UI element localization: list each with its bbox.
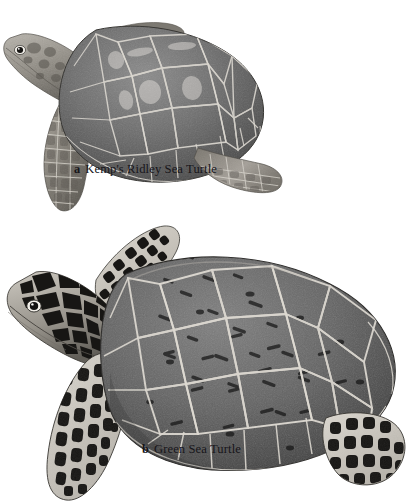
- rear-flipper: [315, 407, 414, 497]
- figure-label-a: a: [74, 162, 80, 176]
- figure-name-a: Kemp's Ridley Sea Turtle: [85, 162, 217, 176]
- illustration-plate: aKemp's Ridley Sea Turtle: [0, 0, 414, 502]
- eye: [27, 300, 41, 312]
- caption-green-sea-turtle: bGreen Sea Turtle: [142, 442, 241, 457]
- figure-name-b: Green Sea Turtle: [154, 442, 241, 456]
- caption-kemps-ridley: aKemp's Ridley Sea Turtle: [74, 162, 217, 177]
- figure-green-sea-turtle: [0, 222, 414, 502]
- sea-turtle-icon: [0, 8, 290, 218]
- eye: [14, 45, 25, 54]
- sea-turtle-icon: [0, 222, 414, 502]
- figure-label-b: b: [142, 442, 149, 456]
- figure-kemps-ridley-sea-turtle: [0, 8, 290, 218]
- rear-flipper-scales: [315, 407, 414, 497]
